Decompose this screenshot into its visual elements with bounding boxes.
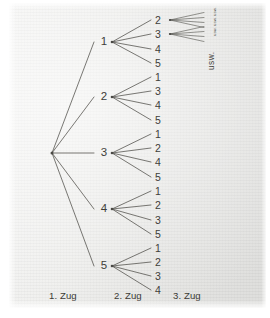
tree-edge-l2-1-3 xyxy=(112,34,151,42)
tree-edge-l1-5 xyxy=(52,153,94,266)
tree-node-dot-3 xyxy=(111,152,114,155)
tree-edge-l1-1 xyxy=(52,42,94,153)
continuation-label-usw-small: usw. usw. usw. xyxy=(213,7,217,36)
column-caption-3: 3. Zug xyxy=(173,291,201,301)
tree-edge-l2-5-3 xyxy=(112,266,151,276)
node-level2-3-1: 1 xyxy=(155,129,161,140)
tree-edge-l2-3-4 xyxy=(112,153,151,162)
tree-edge-l2-4-2 xyxy=(112,205,151,209)
tree-node-dot-l3-2 xyxy=(169,19,171,21)
scanned-page: 1234523451345124512351234usw.usw. usw. u… xyxy=(0,0,270,318)
node-level2-2-3: 3 xyxy=(155,86,161,97)
node-level2-4-1: 1 xyxy=(155,186,161,197)
tree-node-dot-5 xyxy=(111,265,114,268)
tree-node-dot-1 xyxy=(111,41,114,44)
tree-edge-l2-5-2 xyxy=(112,262,151,266)
node-level2-4-5: 5 xyxy=(155,229,161,240)
tree-edge-l2-4-3 xyxy=(112,209,151,220)
node-level2-3-4: 4 xyxy=(155,157,161,168)
node-level2-2-4: 4 xyxy=(155,100,161,111)
node-level2-5-1: 1 xyxy=(155,243,161,254)
tree-edge-l2-1-2 xyxy=(112,20,151,42)
node-level2-1-3: 3 xyxy=(155,29,161,40)
tree-node-dot-2 xyxy=(111,96,114,99)
node-level2-4-2: 2 xyxy=(155,200,161,211)
node-level2-5-3: 3 xyxy=(155,271,161,282)
node-level2-1-5: 5 xyxy=(155,58,161,69)
tree-diagram-lines xyxy=(0,0,270,318)
tree-node-dot-l3-3 xyxy=(169,33,171,35)
node-level2-1-2: 2 xyxy=(155,15,161,26)
tree-node-dot-4 xyxy=(111,208,114,211)
tree-edge-l2-5-1 xyxy=(112,248,151,266)
node-level2-2-1: 1 xyxy=(155,72,161,83)
continuation-label-usw: usw. xyxy=(207,52,215,70)
tree-edge-l2-4-5 xyxy=(112,209,151,234)
node-level2-2-5: 5 xyxy=(155,115,161,126)
tree-edge-l2-3-5 xyxy=(112,153,151,177)
column-caption-2: 2. Zug xyxy=(114,291,142,301)
node-level1-2: 2 xyxy=(101,91,107,103)
node-level1-5: 5 xyxy=(101,260,107,272)
tree-root-node xyxy=(51,152,54,155)
node-level1-1: 1 xyxy=(101,36,107,48)
tree-edge-l1-2 xyxy=(52,97,94,153)
node-level2-5-2: 2 xyxy=(155,257,161,268)
node-level1-3: 3 xyxy=(101,147,107,159)
tree-edge-l2-2-5 xyxy=(112,97,151,120)
node-level2-3-2: 2 xyxy=(155,143,161,154)
tree-edge-l2-4-1 xyxy=(112,191,151,209)
node-level1-4: 4 xyxy=(101,203,107,215)
node-level2-4-3: 3 xyxy=(155,215,161,226)
node-level2-1-4: 4 xyxy=(155,44,161,55)
node-level2-5-4: 4 xyxy=(155,285,161,296)
node-level2-3-5: 5 xyxy=(155,172,161,183)
tree-edge-l2-2-4 xyxy=(112,97,151,105)
column-caption-1: 1. Zug xyxy=(49,291,77,301)
tree-edge-l2-5-4 xyxy=(112,266,151,290)
tree-edge-l1-4 xyxy=(52,153,94,209)
